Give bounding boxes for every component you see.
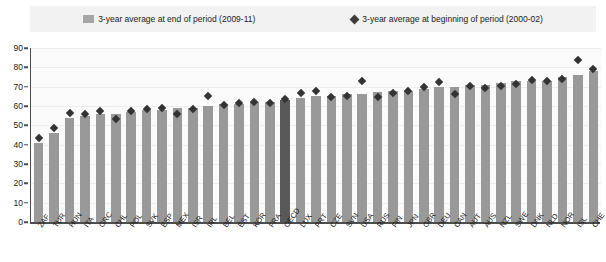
y-axis-tick-label: 50 xyxy=(14,120,23,130)
bar-group xyxy=(465,48,475,222)
y-axis-tick xyxy=(24,163,28,165)
bar-group xyxy=(203,48,213,222)
bar xyxy=(527,81,537,222)
chart-legend: 3-year average at end of period (2009-11… xyxy=(30,6,596,32)
bar-group xyxy=(511,48,521,222)
bar xyxy=(388,91,398,222)
y-axis-tick-label: 70 xyxy=(14,82,23,92)
bar xyxy=(327,96,337,222)
y-axis-tick xyxy=(24,86,28,88)
marker-diamond-icon xyxy=(296,89,304,97)
bar xyxy=(357,94,367,222)
bar xyxy=(434,87,444,222)
bar xyxy=(296,98,306,222)
bar-group xyxy=(589,48,599,222)
y-axis-tick xyxy=(24,183,28,185)
marker-diamond-icon xyxy=(65,109,73,117)
bar xyxy=(573,75,583,222)
bar xyxy=(373,92,383,222)
bar-group xyxy=(373,48,383,222)
bar xyxy=(219,104,229,222)
y-axis-tick xyxy=(24,221,28,223)
bar-group xyxy=(265,48,275,222)
marker-diamond-icon xyxy=(435,78,443,86)
legend-label-end-period: 3-year average at end of period (2009-11… xyxy=(98,14,255,24)
y-axis-tick xyxy=(24,202,28,204)
y-axis-tick-label: 10 xyxy=(14,198,23,208)
marker-diamond-icon xyxy=(312,86,320,94)
y-axis-tick xyxy=(24,125,28,127)
bar-group xyxy=(296,48,306,222)
bar-group xyxy=(111,48,121,222)
y-axis-tick-label: 40 xyxy=(14,140,23,150)
legend-item-begin-period: 3-year average at beginning of period (2… xyxy=(351,14,543,24)
marker-diamond-icon xyxy=(34,134,42,142)
bar-group xyxy=(234,48,244,222)
bar xyxy=(203,106,213,222)
y-axis-tick-label: 0 xyxy=(18,217,23,227)
marker-diamond-icon xyxy=(204,92,212,100)
bar-group xyxy=(450,48,460,222)
y-axis-tick xyxy=(24,67,28,69)
bar xyxy=(404,91,414,222)
bar-group xyxy=(419,48,429,222)
marker-diamond-icon xyxy=(358,77,366,85)
y-axis-tick xyxy=(24,105,28,107)
bar-group xyxy=(388,48,398,222)
bar xyxy=(265,102,275,222)
bar-group xyxy=(80,48,90,222)
marker-diamond-icon xyxy=(50,124,58,132)
bar-group xyxy=(527,48,537,222)
y-axis-tick-label: 20 xyxy=(14,178,23,188)
bar-group xyxy=(173,48,183,222)
x-axis-labels: ZAFTURHUNITAGRCCHLPOLSVKESPMEXISRIRLBELE… xyxy=(30,224,600,262)
bar-group xyxy=(434,48,444,222)
bar xyxy=(481,85,491,222)
bar-group xyxy=(188,48,198,222)
bar-group xyxy=(542,48,552,222)
legend-bar-swatch-icon xyxy=(83,15,94,23)
chart-container: 3-year average at end of period (2009-11… xyxy=(0,0,606,262)
bar xyxy=(96,114,106,222)
plot-area xyxy=(30,48,601,222)
bar-group xyxy=(49,48,59,222)
bar xyxy=(173,108,183,222)
y-axis-tick-label: 30 xyxy=(14,159,23,169)
y-axis: 0102030405060708090 xyxy=(0,48,28,222)
bar xyxy=(496,83,506,222)
bar-group xyxy=(280,48,290,222)
bar xyxy=(34,143,44,222)
bar-group xyxy=(157,48,167,222)
bar xyxy=(157,110,167,222)
bar xyxy=(558,77,568,222)
bar-group xyxy=(481,48,491,222)
bar-group xyxy=(342,48,352,222)
bar-group xyxy=(558,48,568,222)
y-axis-tick xyxy=(24,47,28,49)
bar xyxy=(126,112,136,222)
bar-series xyxy=(31,48,601,222)
y-axis-tick-label: 60 xyxy=(14,101,23,111)
bar-group xyxy=(327,48,337,222)
bar-group xyxy=(250,48,260,222)
bar xyxy=(465,85,475,222)
bar xyxy=(419,89,429,222)
bar xyxy=(111,114,121,222)
bar-group xyxy=(142,48,152,222)
bar-group xyxy=(496,48,506,222)
bar-group xyxy=(34,48,44,222)
y-axis-tick-label: 90 xyxy=(14,43,23,53)
bar xyxy=(250,102,260,222)
y-axis-tick-label: 80 xyxy=(14,62,23,72)
bar xyxy=(511,81,521,222)
y-axis-tick xyxy=(24,144,28,146)
marker-diamond-icon xyxy=(574,55,582,63)
bar-group xyxy=(357,48,367,222)
bar-group xyxy=(65,48,75,222)
bar-group xyxy=(311,48,321,222)
bar xyxy=(142,110,152,222)
bar-group xyxy=(219,48,229,222)
bar xyxy=(188,108,198,222)
bar xyxy=(589,71,599,222)
bar xyxy=(234,104,244,222)
